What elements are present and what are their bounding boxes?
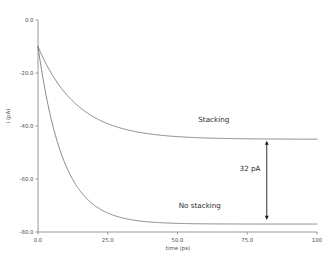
difference-value-label: 32 pA	[240, 164, 261, 173]
x-axis-ticks: 0.025.050.075.0100	[34, 232, 323, 243]
y-tick-label: -40.0	[20, 123, 35, 129]
y-axis-title: i (pA)	[5, 109, 12, 124]
series-line-stacking	[38, 47, 317, 140]
chart-figure: 0.0-20.0-40.0-60.0-80.0 0.025.050.075.01…	[0, 0, 325, 257]
difference-arrow	[265, 141, 269, 220]
difference-arrowhead-top	[265, 141, 269, 145]
series-label-no-stacking: No stacking	[179, 201, 221, 210]
y-tick-label: 0.0	[25, 17, 34, 23]
x-tick-label: 100	[312, 237, 323, 243]
line-chart: 0.0-20.0-40.0-60.0-80.0 0.025.050.075.01…	[0, 0, 325, 257]
x-tick-label: 25.0	[102, 237, 115, 243]
y-tick-label: -20.0	[20, 70, 35, 76]
x-axis-title: time (ps)	[166, 245, 190, 252]
x-tick-label: 75.0	[241, 237, 254, 243]
x-tick-label: 50.0	[171, 237, 184, 243]
series-label-stacking: Stacking	[198, 115, 229, 124]
difference-arrowhead-bottom	[265, 216, 269, 220]
y-axis-ticks: 0.0-20.0-40.0-60.0-80.0	[20, 17, 38, 235]
y-tick-label: -60.0	[20, 176, 35, 182]
series-line-no-stacking	[38, 47, 317, 225]
x-tick-label: 0.0	[34, 237, 43, 243]
y-tick-label: -80.0	[20, 229, 35, 235]
